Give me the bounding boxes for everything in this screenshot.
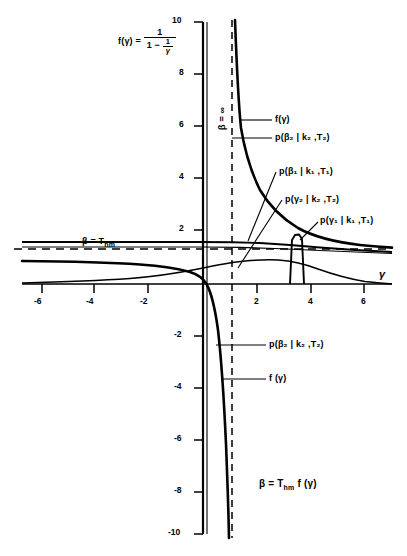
label-p-gamma2: p(γ₂ | k₂ ,T₂) <box>285 194 339 204</box>
label-p-gamma2-text: p(γ₂ | k₂ ,T₂) <box>285 194 339 204</box>
formula-inner-fraction: 1 γ <box>163 38 173 54</box>
label-beta-thm-sub: hm <box>104 241 115 248</box>
xtick--2: -2 <box>140 296 148 306</box>
label-p-beta1-text: p(β₁ | k₁ ,T₁) <box>279 166 333 176</box>
formula-den-lead: 1 − <box>147 41 160 51</box>
corner-eq-tail: f (γ) <box>298 478 317 489</box>
formula-numerator: 1 <box>144 28 176 37</box>
ytick--2: -2 <box>174 329 182 339</box>
ytick--8: -8 <box>174 485 182 495</box>
corner-equation: β = Thm f (γ) <box>259 478 317 491</box>
axis-label-x: γ <box>379 268 385 280</box>
label-p-beta2-bottom-text: p(β₂ | k₂ ,T₂) <box>269 339 324 349</box>
ytick--4: -4 <box>174 381 182 391</box>
label-p-gamma1: p(γ₁ | k₁ ,T₁) <box>320 215 374 225</box>
xtick-6: 6 <box>361 296 366 306</box>
label-f-gamma-bottom-text: f (γ) <box>269 373 287 383</box>
label-beta-thm: β = Thm <box>82 236 115 248</box>
label-f-gamma-bottom: f (γ) <box>269 373 287 383</box>
formula-inner-num: 1 <box>163 38 173 46</box>
label-f-gamma-top-text: f(γ) <box>275 114 290 124</box>
xtick--4: -4 <box>86 296 94 306</box>
ytick--10: -10 <box>168 527 180 537</box>
ytick--6: -6 <box>174 433 182 443</box>
corner-eq-lead: β = T <box>259 478 284 489</box>
y-axis <box>203 22 207 534</box>
formula-inner-den: γ <box>163 46 173 55</box>
figure-canvas <box>0 0 407 556</box>
label-beta-infinity: β = ∞ <box>217 107 227 130</box>
formula-f-gamma: f(γ) = 1 1 − 1 γ <box>118 28 176 54</box>
ytick-2: 2 <box>179 223 184 233</box>
label-p-gamma1-text: p(γ₁ | k₁ ,T₁) <box>320 215 374 225</box>
label-beta-infinity-text: β = ∞ <box>217 107 227 130</box>
ytick-10: 10 <box>172 15 181 25</box>
xtick--6: -6 <box>34 296 42 306</box>
formula-denominator: 1 − 1 γ <box>144 37 176 54</box>
xtick-2: 2 <box>254 296 259 306</box>
label-p-beta2-top-text: p(β₂ | k₂ ,T₂) <box>275 132 330 142</box>
label-p-beta1: p(β₁ | k₁ ,T₁) <box>279 166 333 176</box>
formula-fraction: 1 1 − 1 γ <box>144 28 176 54</box>
axis-label-x-text: γ <box>379 268 385 280</box>
label-beta-thm-text: β = T <box>82 236 104 246</box>
curve-f-gamma-left <box>22 261 229 538</box>
ytick-4: 4 <box>179 171 184 181</box>
label-p-beta2-bottom: p(β₂ | k₂ ,T₂) <box>269 339 324 349</box>
xtick-4: 4 <box>308 296 313 306</box>
corner-eq-sub: hm <box>284 484 295 491</box>
curve-p-gamma1-spike <box>290 235 304 285</box>
label-f-gamma-top: f(γ) <box>275 114 290 124</box>
ytick-6: 6 <box>179 119 184 129</box>
formula-lhs: f(γ) = <box>118 36 141 46</box>
ytick-8: 8 <box>179 67 184 77</box>
label-p-beta2-top: p(β₂ | k₂ ,T₂) <box>275 132 330 142</box>
